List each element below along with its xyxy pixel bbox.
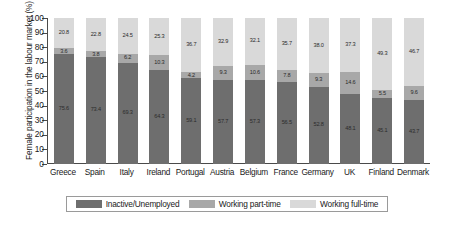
bar-segment-inactive: 52.8 bbox=[309, 87, 329, 164]
bar-segment-full-time: 25.3 bbox=[149, 18, 169, 55]
bar-segment-inactive: 48.1 bbox=[340, 94, 360, 164]
bar-column: 52.89.338.0 bbox=[309, 18, 329, 164]
bar-segment-part-time: 9.6 bbox=[404, 86, 424, 100]
bar-segment-part-time: 6.2 bbox=[118, 54, 138, 63]
legend-item: Inactive/Unemployed bbox=[76, 199, 180, 209]
bar-segment-part-time: 5.5 bbox=[372, 90, 392, 98]
bar-value-label: 75.6 bbox=[54, 106, 74, 112]
y-tick-label: 90 bbox=[35, 27, 44, 37]
bar-segment-inactive: 64.3 bbox=[149, 70, 169, 164]
bar-value-label: 49.3 bbox=[372, 51, 392, 57]
bar-value-label: 9.3 bbox=[309, 77, 329, 83]
bar-column: 69.36.224.5 bbox=[118, 18, 138, 164]
bar-value-label: 57.7 bbox=[213, 119, 233, 125]
bar-value-label: 25.3 bbox=[149, 34, 169, 40]
bar-segment-inactive: 59.1 bbox=[181, 78, 201, 164]
bar-value-label: 3.6 bbox=[54, 49, 74, 55]
bar-value-label: 59.1 bbox=[181, 118, 201, 124]
bar-segment-full-time: 38.0 bbox=[309, 18, 329, 73]
bar-segment-full-time: 20.8 bbox=[54, 18, 74, 48]
plot-area: 0102030405060708090100 75.63.620.873.43.… bbox=[47, 18, 430, 164]
bar-value-label: 64.3 bbox=[149, 114, 169, 120]
legend-swatch bbox=[290, 200, 316, 208]
x-tick-label: Denmark bbox=[390, 167, 436, 177]
bar-value-label: 45.1 bbox=[372, 128, 392, 134]
bar-value-label: 43.7 bbox=[404, 129, 424, 135]
bar-segment-part-time: 9.3 bbox=[309, 73, 329, 87]
bar-column: 43.79.646.7 bbox=[404, 18, 424, 164]
bar-segment-part-time: 4.2 bbox=[181, 72, 201, 78]
bar-segment-part-time: 10.3 bbox=[149, 55, 169, 70]
y-tick-label: 70 bbox=[35, 56, 44, 66]
bar-value-label: 7.8 bbox=[277, 73, 297, 79]
bar-segment-full-time: 37.3 bbox=[340, 18, 360, 72]
bar-segment-inactive: 56.5 bbox=[277, 82, 297, 164]
bar-value-label: 6.2 bbox=[118, 55, 138, 61]
stacked-bar-chart: Female participation in the labour marke… bbox=[0, 0, 450, 231]
bar-value-label: 9.6 bbox=[404, 90, 424, 96]
bar-column: 57.310.632.1 bbox=[245, 18, 265, 164]
bar-series-group: 75.63.620.873.43.822.869.36.224.564.310.… bbox=[48, 18, 430, 164]
bar-value-label: 10.3 bbox=[149, 60, 169, 66]
bar-segment-full-time: 36.7 bbox=[181, 18, 201, 72]
bar-segment-inactive: 43.7 bbox=[404, 100, 424, 164]
legend-item: Working full-time bbox=[290, 199, 378, 209]
bar-segment-full-time: 22.8 bbox=[86, 18, 106, 51]
bar-value-label: 32.9 bbox=[213, 39, 233, 45]
legend-item: Working part-time bbox=[189, 199, 281, 209]
bar-column: 59.14.236.7 bbox=[181, 18, 201, 164]
bar-value-label: 57.3 bbox=[245, 119, 265, 125]
bar-value-label: 9.3 bbox=[213, 70, 233, 76]
bar-segment-inactive: 73.4 bbox=[86, 57, 106, 164]
bar-value-label: 10.6 bbox=[245, 70, 265, 76]
y-tick-label: 40 bbox=[35, 100, 44, 110]
legend-label: Working part-time bbox=[219, 199, 281, 209]
bar-column: 75.63.620.8 bbox=[54, 18, 74, 164]
bar-value-label: 24.5 bbox=[118, 33, 138, 39]
bar-value-label: 69.3 bbox=[118, 110, 138, 116]
bar-segment-inactive: 69.3 bbox=[118, 63, 138, 164]
bar-value-label: 36.7 bbox=[181, 42, 201, 48]
y-tick-label: 10 bbox=[35, 144, 44, 154]
bar-value-label: 20.8 bbox=[54, 30, 74, 36]
legend-swatch bbox=[76, 200, 102, 208]
bar-value-label: 14.6 bbox=[340, 80, 360, 86]
bar-value-label: 35.7 bbox=[277, 41, 297, 47]
bar-segment-inactive: 75.6 bbox=[54, 54, 74, 164]
bar-segment-part-time: 14.6 bbox=[340, 72, 360, 93]
y-tick-label: 80 bbox=[35, 42, 44, 52]
y-tick-label: 30 bbox=[35, 115, 44, 125]
bar-value-label: 56.5 bbox=[277, 120, 297, 126]
bar-value-label: 3.8 bbox=[86, 52, 106, 58]
bar-value-label: 46.7 bbox=[404, 49, 424, 55]
bar-column: 64.310.325.3 bbox=[149, 18, 169, 164]
bar-segment-full-time: 32.9 bbox=[213, 18, 233, 66]
y-tick-label: 60 bbox=[35, 71, 44, 81]
bar-segment-full-time: 24.5 bbox=[118, 18, 138, 54]
bar-value-label: 37.3 bbox=[340, 42, 360, 48]
bar-column: 56.57.835.7 bbox=[277, 18, 297, 164]
bar-value-label: 73.4 bbox=[86, 107, 106, 113]
bar-value-label: 48.1 bbox=[340, 126, 360, 132]
legend-label: Inactive/Unemployed bbox=[106, 199, 180, 209]
bar-column: 73.43.822.8 bbox=[86, 18, 106, 164]
y-tick-label: 20 bbox=[35, 129, 44, 139]
bar-segment-part-time: 3.8 bbox=[86, 51, 106, 57]
bar-value-label: 5.5 bbox=[372, 91, 392, 97]
bar-segment-inactive: 57.3 bbox=[245, 80, 265, 164]
bar-segment-full-time: 32.1 bbox=[245, 18, 265, 65]
bar-segment-part-time: 3.6 bbox=[54, 48, 74, 53]
legend-label: Working full-time bbox=[320, 199, 378, 209]
bar-segment-full-time: 46.7 bbox=[404, 18, 424, 86]
bar-column: 45.15.549.3 bbox=[372, 18, 392, 164]
y-axis-title: Female participation in the labour marke… bbox=[25, 0, 34, 176]
y-tick-label: 100 bbox=[30, 13, 44, 23]
bar-column: 48.114.637.3 bbox=[340, 18, 360, 164]
bar-segment-inactive: 57.7 bbox=[213, 80, 233, 164]
chart-legend: Inactive/UnemployedWorking part-timeWork… bbox=[66, 196, 388, 212]
bar-segment-full-time: 49.3 bbox=[372, 18, 392, 90]
bar-value-label: 32.1 bbox=[245, 38, 265, 44]
bar-value-label: 38.0 bbox=[309, 43, 329, 49]
bar-segment-part-time: 10.6 bbox=[245, 65, 265, 80]
bar-value-label: 22.8 bbox=[86, 32, 106, 38]
